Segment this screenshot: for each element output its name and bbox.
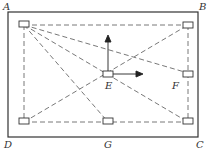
node-E-box xyxy=(103,71,113,77)
node-G-box xyxy=(103,118,113,124)
label-A: A xyxy=(3,2,10,12)
label-C: C xyxy=(196,140,204,150)
node-F-box xyxy=(183,71,193,77)
label-B: B xyxy=(199,2,206,12)
node-B-box xyxy=(183,22,193,28)
label-F: F xyxy=(172,81,179,91)
label-G: G xyxy=(104,140,112,150)
node-D-box xyxy=(19,118,29,124)
diagram-canvas xyxy=(0,0,210,153)
node-A-box xyxy=(19,21,29,27)
label-E: E xyxy=(105,81,112,91)
label-D: D xyxy=(4,140,12,150)
node-boxes xyxy=(19,21,193,124)
node-C-box xyxy=(183,118,193,124)
